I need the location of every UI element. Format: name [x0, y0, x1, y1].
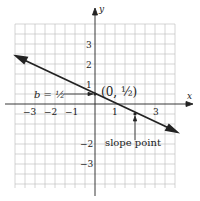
y-tick-label: −2	[80, 140, 93, 149]
slope-arrow-icon	[133, 116, 136, 121]
x-tick-label: 1	[112, 108, 118, 117]
y-tick-label: 3	[86, 41, 92, 50]
intercept-point-label: (0, ½)	[101, 86, 137, 98]
intercept-label: b = ½	[34, 90, 65, 100]
y-axis-label: y	[99, 5, 104, 14]
y-tick-label: 1	[86, 81, 92, 90]
x-tick-label: −3	[23, 108, 36, 117]
x-tick-label: 3	[153, 108, 159, 117]
slope-point-label: slope point	[105, 138, 161, 148]
x-axis-arrow-icon	[186, 102, 193, 107]
coordinate-plane	[0, 0, 200, 201]
x-tick-label: −2	[44, 108, 57, 117]
x-tick-label: −1	[65, 108, 78, 117]
y-axis-arrow-icon	[93, 8, 98, 15]
y-tick-label: −3	[80, 160, 93, 169]
line-arrow-left-icon	[16, 56, 27, 63]
x-axis-label: x	[187, 92, 192, 101]
y-tick-label: 2	[86, 61, 92, 70]
line-arrow-right-icon	[166, 125, 177, 132]
